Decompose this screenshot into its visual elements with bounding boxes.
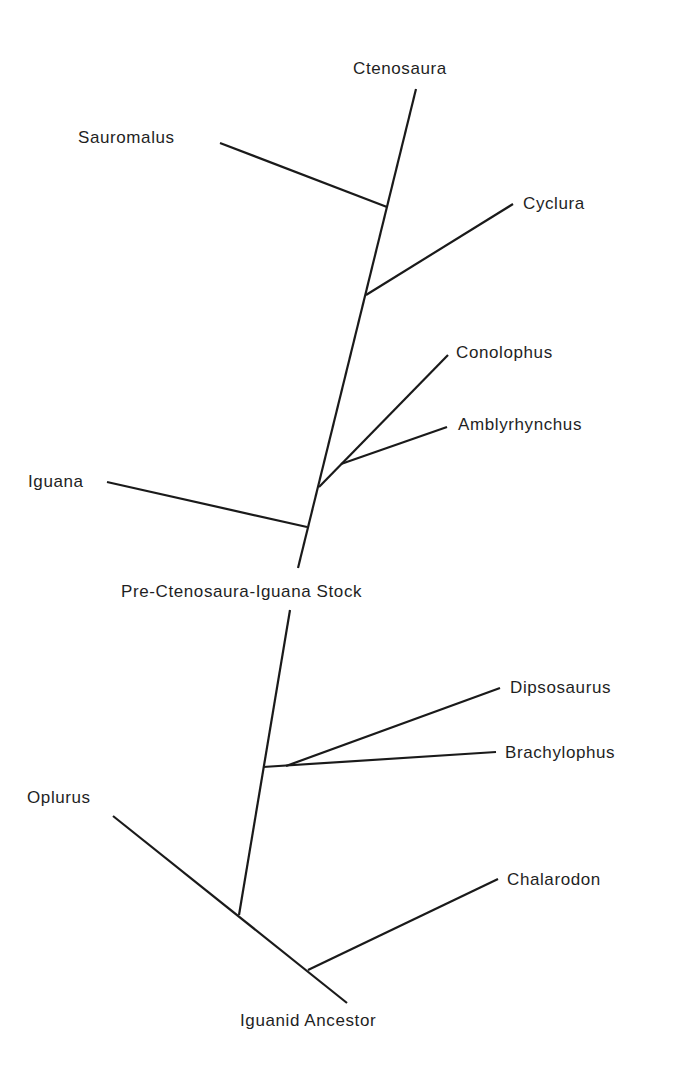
taxon-label-iguana: Iguana — [28, 473, 84, 490]
taxon-label-cyclura: Cyclura — [523, 195, 585, 212]
taxon-label-brachylophus: Brachylophus — [505, 744, 615, 761]
taxon-label-conolophus: Conolophus — [456, 344, 553, 361]
taxon-label-oplurus: Oplurus — [27, 789, 91, 806]
taxon-label-sauromalus: Sauromalus — [78, 129, 175, 146]
branch-sauromalus — [220, 143, 387, 207]
branch-brachylophus — [263, 752, 496, 767]
branch-upper-trunk — [298, 89, 416, 568]
branch-cyclura — [366, 204, 513, 295]
node-label-ancestor: Iguanid Ancestor — [240, 1012, 376, 1029]
taxon-label-ctenosaura: Ctenosaura — [353, 60, 447, 77]
node-label-pre-stock: Pre-Ctenosaura-Iguana Stock — [121, 583, 362, 600]
branch-oplurus-ancestor — [113, 816, 347, 1003]
branch-amblyrhynchus — [341, 427, 447, 464]
taxon-label-amblyrhynchus: Amblyrhynchus — [458, 416, 582, 433]
branch-iguana — [107, 482, 307, 527]
taxon-label-dipsosaurus: Dipsosaurus — [510, 679, 611, 696]
branch-chalarodon — [308, 879, 498, 970]
branch-conolophus — [319, 355, 448, 487]
branch-lower-trunk — [239, 610, 290, 915]
taxon-label-chalarodon: Chalarodon — [507, 871, 601, 888]
phylogenetic-tree — [0, 0, 690, 1081]
